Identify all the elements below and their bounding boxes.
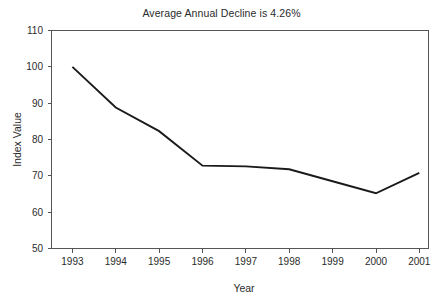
x-tick-label-1999: 1999 [321, 256, 344, 267]
x-axis-labels: 1993 1994 1995 1996 1997 1998 1999 2000 … [61, 256, 431, 267]
y-tick-label-90: 90 [32, 98, 44, 109]
y-axis-ticks [48, 31, 52, 249]
x-tick-label-1994: 1994 [105, 256, 128, 267]
line-chart-plot: 110 100 90 80 70 60 50 1993 1994 1995 19… [0, 0, 443, 304]
x-axis-ticks [72, 249, 419, 253]
x-tick-label-1995: 1995 [148, 256, 171, 267]
x-tick-label-2000: 2000 [365, 256, 388, 267]
x-tick-label-1997: 1997 [235, 256, 258, 267]
y-axis-labels: 110 100 90 80 70 60 50 [26, 25, 43, 254]
data-series-line [72, 67, 419, 193]
y-tick-label-60: 60 [32, 207, 44, 218]
y-tick-label-80: 80 [32, 134, 44, 145]
chart-container: Average Annual Decline is 4.26% 110 100 … [0, 0, 443, 304]
x-tick-label-2001: 2001 [408, 256, 431, 267]
x-tick-label-1996: 1996 [191, 256, 214, 267]
y-tick-label-50: 50 [32, 243, 44, 254]
y-tick-label-70: 70 [32, 170, 44, 181]
plot-frame [52, 31, 429, 249]
y-tick-label-110: 110 [27, 25, 43, 36]
y-tick-label-100: 100 [26, 61, 43, 72]
x-axis-title: Year [233, 282, 255, 294]
y-axis-title: Index Value [11, 112, 23, 167]
x-tick-label-1993: 1993 [61, 256, 84, 267]
x-tick-label-1998: 1998 [278, 256, 301, 267]
